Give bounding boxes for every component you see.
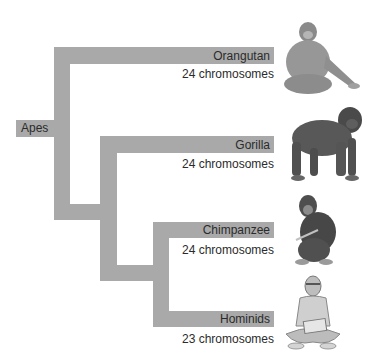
- chromosome-count-gorilla: 24 chromosomes: [154, 157, 274, 171]
- chromosome-count-hominids: 23 chromosomes: [154, 332, 274, 346]
- chimpanzee-icon: [288, 192, 348, 268]
- human-icon: [280, 272, 346, 354]
- root-node-apes: Apes: [16, 120, 56, 137]
- taxon-name-chimpanzee: Chimpanzee: [174, 222, 270, 238]
- taxon-name-gorilla: Gorilla: [174, 137, 270, 153]
- orangutan-icon: [278, 18, 362, 98]
- taxon-name-orangutan: Orangutan: [174, 48, 270, 64]
- gorilla-vertical-branch: [100, 136, 117, 281]
- chromosome-count-orangutan: 24 chromosomes: [154, 67, 274, 81]
- taxon-name-hominids: Hominids: [174, 311, 270, 327]
- chromosome-count-chimpanzee: 24 chromosomes: [154, 243, 274, 257]
- gorilla-icon: [280, 104, 368, 184]
- root-label: Apes: [21, 121, 48, 135]
- orangutan-vertical-branch: [54, 47, 70, 220]
